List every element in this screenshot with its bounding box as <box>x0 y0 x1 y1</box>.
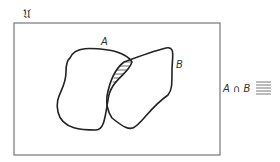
universe-frame <box>14 23 220 155</box>
set-a-outline <box>57 48 132 130</box>
venn-diagram: 𝔘 A B A ∩ B <box>0 0 280 162</box>
universe-label: 𝔘 <box>23 7 31 21</box>
set-b-label: B <box>176 59 183 70</box>
legend-label: A ∩ B <box>222 83 251 94</box>
hatch-swatch-icon <box>256 82 271 94</box>
set-b-outline <box>107 48 173 129</box>
intersection-region <box>109 48 173 129</box>
legend: A ∩ B <box>222 82 271 94</box>
set-a-label: A <box>100 36 108 47</box>
